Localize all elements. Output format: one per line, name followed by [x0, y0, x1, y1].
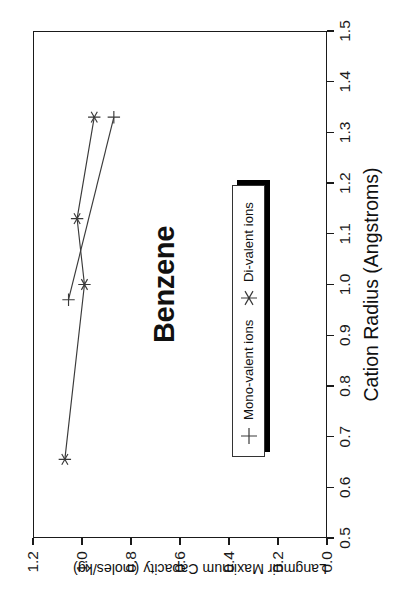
- asterisk-data-marker: [88, 112, 100, 123]
- x-tick-label: 1.5: [336, 9, 354, 53]
- series-line-1: [65, 117, 94, 459]
- series-line-0: [69, 117, 114, 300]
- plus-data-marker: [62, 294, 74, 306]
- x-tick: [327, 132, 334, 133]
- x-tick-label: 0.5: [336, 516, 354, 560]
- x-tick: [327, 30, 334, 31]
- legend-label-di-valent: Di-valent ions: [241, 202, 256, 282]
- plus-data-marker: [108, 111, 120, 123]
- x-tick-label: 1.2: [336, 161, 354, 205]
- asterisk-marker-icon: [238, 287, 260, 309]
- x-tick: [327, 81, 334, 82]
- y-tick: [32, 538, 33, 545]
- y-tick: [130, 538, 131, 545]
- x-tick-label: 0.8: [336, 364, 354, 408]
- x-tick: [327, 233, 334, 234]
- x-tick-label: 1.3: [336, 110, 354, 154]
- x-tick: [327, 487, 334, 488]
- y-tick: [179, 538, 180, 545]
- legend-item-di-valent: Di-valent ions: [232, 202, 265, 309]
- legend: Mono-valent ions Di-valent ions: [232, 185, 265, 457]
- y-tick: [81, 538, 82, 545]
- x-tick: [327, 537, 334, 538]
- x-tick-label: 0.7: [336, 415, 354, 459]
- chart-title: Benzene: [148, 31, 181, 538]
- y-tick-label: 1.2: [24, 551, 42, 593]
- x-tick: [327, 436, 334, 437]
- plus-marker-icon: [238, 425, 260, 447]
- x-tick: [327, 284, 334, 285]
- x-tick: [327, 385, 334, 386]
- chart-figure: 0.50.60.70.80.91.01.11.21.31.41.5 0.00.2…: [0, 0, 393, 593]
- y-tick: [228, 538, 229, 545]
- y-tick: [326, 538, 327, 545]
- x-tick-label: 0.9: [336, 313, 354, 357]
- y-tick: [277, 538, 278, 545]
- legend-item-mono-valent: Mono-valent ions: [232, 320, 265, 447]
- x-tick: [327, 335, 334, 336]
- legend-label-mono-valent: Mono-valent ions: [241, 320, 256, 420]
- x-tick-label: 1.0: [336, 263, 354, 307]
- x-axis-title: Cation Radius (Angstroms): [360, 31, 383, 538]
- y-axis-title: Langmuir Maximum Capacity (moles/kg): [73, 561, 327, 577]
- x-tick-label: 0.6: [336, 465, 354, 509]
- screenshot-root: 0.50.60.70.80.91.01.11.21.31.41.5 0.00.2…: [0, 0, 393, 593]
- x-tick-label: 1.1: [336, 212, 354, 256]
- x-tick: [327, 182, 334, 183]
- x-tick-label: 1.4: [336, 60, 354, 104]
